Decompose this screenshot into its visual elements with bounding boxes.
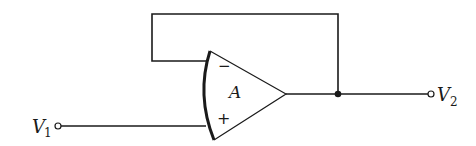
op-amp-symbol: − + A <box>204 51 286 140</box>
input-terminal <box>55 123 61 129</box>
svg-text:2: 2 <box>450 95 458 109</box>
output-terminal <box>428 91 434 97</box>
svg-text:1: 1 <box>44 126 52 140</box>
noninverting-input-sign: + <box>217 109 230 128</box>
output-label: V 2 <box>437 84 458 109</box>
feedback-wire <box>152 14 338 94</box>
junction-dot <box>335 91 342 98</box>
opamp-circuit-diagram: − + A V 1 V 2 <box>0 0 476 146</box>
inverting-input-sign: − <box>218 57 231 75</box>
gain-label: A <box>227 82 241 102</box>
input-label: V 1 <box>32 116 52 140</box>
